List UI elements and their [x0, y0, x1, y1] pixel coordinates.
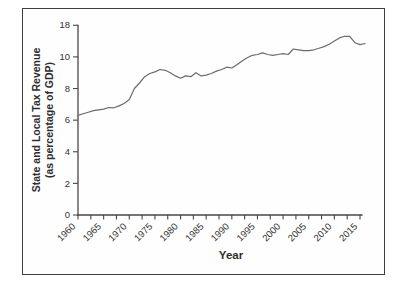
x-tick-label: 1965: [80, 221, 103, 244]
y-axis-title-line1: State and Local Tax Revenue: [30, 48, 42, 193]
y-tick-label: 2: [65, 178, 70, 189]
x-axis-title: Year: [219, 249, 244, 261]
y-tick-label: 0: [65, 209, 70, 220]
y-tick-label: 10: [59, 51, 70, 62]
x-tick-label: 1980: [157, 221, 180, 244]
data-series: [78, 36, 365, 115]
chart: 024681018 196019651970197519801985199019…: [0, 0, 400, 289]
y-tick-label: 6: [65, 114, 70, 125]
y-tick-label: 18: [59, 19, 70, 30]
y-axis-title-line2: (as percentage of GDP): [43, 62, 55, 178]
x-tick-label: 1985: [183, 221, 206, 244]
x-tick-label: 1990: [209, 221, 232, 244]
y-tick-label: 4: [65, 146, 70, 157]
x-tick-label: 2010: [311, 221, 334, 244]
x-tick-label: 2015: [337, 221, 360, 244]
x-axis-ticks: 1960196519701975198019851990199520002005…: [55, 215, 360, 243]
x-tick-label: 2000: [260, 221, 283, 244]
y-axis-ticks: 024681018: [59, 19, 78, 220]
revenue-line: [78, 36, 365, 115]
x-tick-label: 1960: [55, 221, 78, 244]
y-tick-label: 8: [65, 83, 70, 94]
x-tick-label: 1970: [106, 221, 129, 244]
axes: [78, 25, 362, 215]
figure: 024681018 196019651970197519801985199019…: [0, 0, 400, 289]
x-tick-label: 2005: [285, 221, 308, 244]
x-tick-label: 1995: [234, 221, 257, 244]
x-tick-label: 1975: [132, 221, 155, 244]
